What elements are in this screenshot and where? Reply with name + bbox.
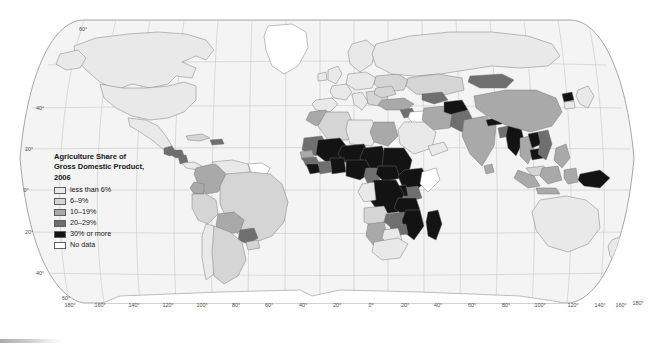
svg-text:80°: 80° [502,302,510,308]
world-choropleth-figure: 60° 40° 20° 0° 20° 40° 60° 180° 160° 140… [0,0,654,355]
country-south-korea [564,101,575,109]
legend-item-no-data[interactable]: No data [54,240,172,250]
svg-text:120°: 120° [567,302,578,308]
svg-text:20°: 20° [401,302,409,308]
svg-text:100°: 100° [196,302,207,308]
svg-text:40°: 40° [299,302,307,308]
legend-label-no-data: No data [70,241,95,249]
legend-label-6-9: 6–9% [70,197,88,205]
svg-text:180°: 180° [632,300,643,306]
country-ghana-burkina [330,158,346,174]
map-legend: Agriculture Share of Gross Domestic Prod… [54,152,172,251]
legend-swatch-20-29 [54,220,66,228]
legend-item-6-9[interactable]: 6–9% [54,196,172,206]
svg-text:60°: 60° [79,26,87,32]
legend-title: Agriculture Share of Gross Domestic Prod… [54,152,172,183]
svg-text:80°: 80° [232,302,240,308]
legend-swatch-lt6 [54,187,66,195]
legend-item-10-19[interactable]: 10–19% [54,207,172,217]
legend-swatch-no-data [54,242,66,250]
country-north-korea [562,92,574,102]
legend-swatch-30-plus [54,231,66,239]
svg-text:20°: 20° [333,302,341,308]
legend-label-lt6: less than 6% [70,186,111,194]
footer-rule-accent [0,339,62,343]
legend-item-20-29[interactable]: 20–29% [54,218,172,228]
svg-text:120°: 120° [162,302,173,308]
svg-text:180°: 180° [64,302,75,308]
legend-item-30-plus[interactable]: 30% or more [54,229,172,239]
svg-text:0°: 0° [23,187,28,193]
country-cote-divoire [318,161,332,174]
country-uruguay [246,240,260,250]
svg-text:140°: 140° [128,302,139,308]
svg-text:40°: 40° [36,270,44,276]
svg-text:20°: 20° [25,229,33,235]
legend-swatch-6-9 [54,198,66,206]
legend-label-30-plus: 30% or more [70,230,111,238]
svg-text:60°: 60° [468,302,476,308]
legend-label-20-29: 20–29% [70,219,96,227]
country-sri-lanka [484,164,494,174]
country-indonesia-java [536,188,560,194]
svg-text:40°: 40° [36,105,44,111]
svg-text:100°: 100° [534,302,545,308]
country-hispaniola [210,139,224,145]
svg-text:20°: 20° [25,146,33,152]
legend-item-lt6[interactable]: less than 6% [54,185,172,195]
svg-text:160°: 160° [615,302,626,308]
legend-label-10-19: 10–19% [70,208,96,216]
svg-text:60°: 60° [62,295,70,301]
svg-text:40°: 40° [434,302,442,308]
svg-text:60°: 60° [265,302,273,308]
svg-text:160°: 160° [94,302,105,308]
svg-text:140°: 140° [594,302,605,308]
legend-swatch-10-19 [54,209,66,217]
svg-text:0°: 0° [368,302,373,308]
